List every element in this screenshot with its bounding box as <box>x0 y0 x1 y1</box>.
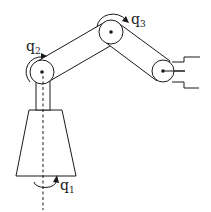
q3-label: q3 <box>131 11 146 29</box>
q1-label: q1 <box>60 177 75 195</box>
q1-rotation-arrow-icon <box>34 175 59 188</box>
robot-base <box>16 110 76 176</box>
robot-arm-diagram: q2 q3 q1 <box>0 0 211 212</box>
q2-label: q2 <box>26 38 41 56</box>
